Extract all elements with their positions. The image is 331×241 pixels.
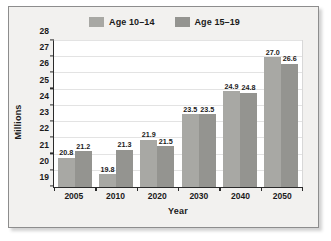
- x-axis-title: Year: [53, 206, 303, 216]
- bar: 23.5: [199, 114, 216, 187]
- legend-label-age-10-14: Age 10–14: [109, 17, 154, 27]
- y-axis-title-text: Millions: [13, 104, 23, 139]
- x-axis-tick-label: 2030: [178, 191, 220, 201]
- bar: 19.8: [99, 174, 116, 187]
- bar: 26.6: [281, 64, 298, 187]
- y-axis-title: Millions: [10, 79, 26, 165]
- bar-value-label: 24.9: [224, 82, 238, 91]
- bar-group: 23.523.5: [178, 41, 219, 187]
- chart-figure: Age 10–14 Age 15–19 Millions 28272625242…: [8, 6, 319, 228]
- bar-group: 19.821.3: [95, 41, 136, 187]
- y-axis-tick-label: 27: [40, 42, 54, 52]
- x-axis-tick-label: 2010: [95, 191, 137, 201]
- legend-label-age-15-19: Age 15–19: [195, 17, 240, 27]
- bar-value-label: 27.0: [266, 48, 280, 57]
- legend-entry-age-10-14: Age 10–14: [89, 17, 154, 27]
- bar-value-label: 26.6: [283, 54, 297, 63]
- bar-value-label: 21.9: [142, 130, 156, 139]
- bar: 24.8: [240, 93, 257, 187]
- plot-area-wrapper: 28272625242322212019 20.821.219.821.321.…: [53, 40, 303, 188]
- bar-group: 27.026.6: [261, 41, 302, 187]
- bar-group: 24.924.8: [219, 41, 260, 187]
- bar: 27.0: [264, 57, 281, 187]
- legend-entry-age-15-19: Age 15–19: [175, 17, 240, 27]
- bar: 21.3: [116, 150, 133, 187]
- x-axis-tick-label: 2050: [261, 191, 303, 201]
- y-axis-tick-label: 22: [40, 123, 54, 133]
- legend-swatch-age-15-19: [175, 17, 190, 27]
- bar: 21.9: [140, 140, 157, 187]
- bar-group: 21.921.5: [137, 41, 178, 187]
- bar-value-label: 21.3: [117, 140, 131, 149]
- bar-groups: 20.821.219.821.321.921.523.523.524.924.8…: [54, 41, 302, 187]
- y-axis-tick-label: 21: [40, 140, 54, 150]
- y-axis-tick-label: 25: [40, 75, 54, 85]
- y-axis-tick-label: 20: [40, 156, 54, 166]
- bar-value-label: 24.8: [241, 83, 255, 92]
- bar-value-label: 21.5: [159, 137, 173, 146]
- bar-value-label: 23.5: [200, 105, 214, 114]
- bar: 24.9: [223, 91, 240, 187]
- chart-legend: Age 10–14 Age 15–19: [9, 17, 320, 27]
- y-axis-tick-label: 28: [40, 26, 54, 36]
- y-axis-tick-label: 23: [40, 107, 54, 117]
- x-axis-tick-label: 2020: [136, 191, 178, 201]
- legend-swatch-age-10-14: [89, 17, 104, 27]
- bar: 23.5: [182, 114, 199, 187]
- bar: 21.2: [75, 151, 92, 187]
- bar-value-label: 19.8: [100, 165, 114, 174]
- x-axis-tick-label: 2040: [220, 191, 262, 201]
- x-axis-tick-label: 2005: [53, 191, 95, 201]
- y-axis-tick-label: 24: [40, 91, 54, 101]
- bar: 20.8: [58, 158, 75, 187]
- plot-area: 28272625242322212019 20.821.219.821.321.…: [53, 40, 303, 188]
- y-axis-tick-label: 26: [40, 58, 54, 68]
- y-axis-tick-label: 19: [40, 172, 54, 182]
- bar-group: 20.821.2: [54, 41, 95, 187]
- bar: 21.5: [157, 146, 174, 187]
- bar-value-label: 21.2: [76, 142, 90, 151]
- bar-value-label: 20.8: [59, 148, 73, 157]
- bar-value-label: 23.5: [183, 105, 197, 114]
- x-axis-tick-labels: 200520102020203020402050: [53, 191, 303, 201]
